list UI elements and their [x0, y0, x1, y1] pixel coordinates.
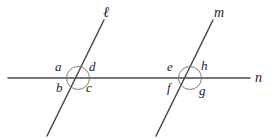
- line-label-l: ℓ: [103, 5, 109, 19]
- angle-label-c: c: [86, 81, 92, 94]
- line-label-n: n: [255, 71, 262, 85]
- angle-label-d: d: [89, 60, 96, 73]
- angle-label-a: a: [55, 60, 62, 73]
- angle-label-e: e: [167, 60, 173, 73]
- angle-label-h: h: [201, 59, 208, 72]
- geometry-canvas: [0, 0, 273, 139]
- lines-group: [8, 20, 250, 136]
- geometry-figure: ℓ m n a d b c e h f g: [0, 0, 273, 139]
- angle-label-g: g: [199, 84, 206, 97]
- line-label-m: m: [214, 6, 224, 20]
- angle-label-f: f: [167, 81, 171, 94]
- angle-label-b: b: [56, 81, 63, 94]
